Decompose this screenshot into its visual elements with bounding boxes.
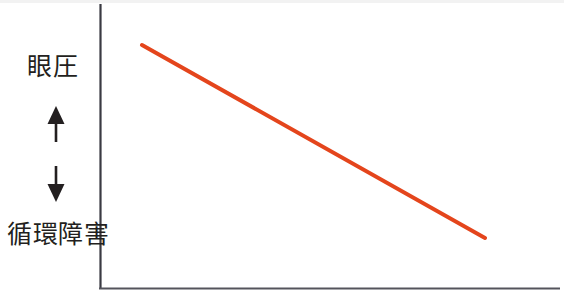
- plot-area: [0, 0, 564, 302]
- down-arrow-icon: [48, 166, 65, 202]
- axis-label-intraocular-pressure: 眼圧: [27, 54, 78, 80]
- chart-figure: 眼圧 循環障害: [0, 0, 564, 302]
- up-arrow-icon: [48, 106, 65, 142]
- data-line-series-1: [142, 45, 485, 238]
- axis-label-circulatory-disorder: 循環障害: [7, 222, 109, 248]
